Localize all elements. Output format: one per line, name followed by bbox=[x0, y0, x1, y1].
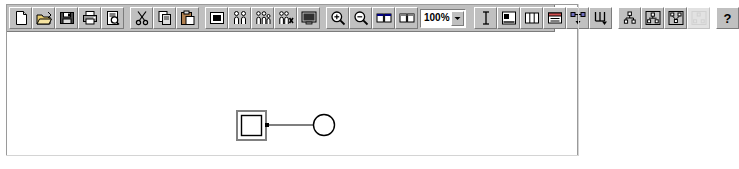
tree-extra-button[interactable] bbox=[687, 7, 710, 29]
save-diskette-icon bbox=[59, 10, 75, 26]
tile-vertical-button[interactable] bbox=[395, 7, 418, 29]
application-window: 100% bbox=[6, 4, 578, 155]
card-view-button[interactable] bbox=[543, 7, 566, 29]
card-view-icon bbox=[547, 10, 563, 26]
square-connection-anchor[interactable] bbox=[265, 123, 269, 127]
save-button[interactable] bbox=[55, 7, 78, 29]
zoom-in-button[interactable] bbox=[326, 7, 349, 29]
scissors-icon bbox=[134, 10, 150, 26]
toolbar-group-view bbox=[326, 7, 418, 30]
tile-horizontal-button[interactable] bbox=[372, 7, 395, 29]
diagram-surface[interactable] bbox=[7, 32, 577, 155]
add-family-button[interactable] bbox=[251, 7, 274, 29]
toolbar-group-file bbox=[9, 7, 124, 30]
zoom-dropdown-button[interactable] bbox=[451, 11, 464, 26]
people-group-icon bbox=[255, 10, 271, 26]
insert-object-button[interactable] bbox=[205, 7, 228, 29]
toolbar-group-format bbox=[474, 7, 612, 30]
node-circle[interactable] bbox=[314, 115, 335, 136]
open-folder-icon bbox=[36, 10, 52, 26]
chevron-down-icon bbox=[454, 16, 461, 21]
remove-person-button[interactable] bbox=[274, 7, 297, 29]
columns-icon bbox=[524, 10, 540, 26]
print-preview-button[interactable] bbox=[101, 7, 124, 29]
tree-small-icon bbox=[622, 10, 638, 26]
new-document-icon bbox=[13, 10, 29, 26]
text-cursor-icon bbox=[478, 10, 494, 26]
printer-icon bbox=[82, 10, 98, 26]
descend-arrow-icon bbox=[593, 10, 609, 26]
toolbar-group-hierarchy bbox=[618, 7, 710, 30]
object-box-icon bbox=[209, 10, 225, 26]
zoom-out-icon bbox=[353, 10, 369, 26]
tree-network-icon bbox=[668, 10, 684, 26]
copy-pages-icon bbox=[157, 10, 173, 26]
two-people-icon bbox=[232, 10, 248, 26]
window-shadow-bottom bbox=[6, 155, 579, 156]
person-delete-icon bbox=[278, 10, 294, 26]
print-preview-icon bbox=[105, 10, 121, 26]
node-square[interactable] bbox=[242, 116, 262, 136]
question-mark-icon: ? bbox=[724, 12, 732, 25]
window-shadow-right bbox=[578, 4, 579, 155]
cut-button[interactable] bbox=[130, 7, 153, 29]
print-button[interactable] bbox=[78, 7, 101, 29]
tree-small-button[interactable] bbox=[618, 7, 641, 29]
tree-extra-icon bbox=[691, 10, 707, 26]
toolbar: 100% bbox=[7, 5, 555, 32]
align-button[interactable] bbox=[497, 7, 520, 29]
diagram-canvas[interactable] bbox=[7, 32, 577, 155]
toolbar-group-objects bbox=[205, 7, 320, 30]
descend-button[interactable] bbox=[589, 7, 612, 29]
add-pair-button[interactable] bbox=[228, 7, 251, 29]
zoom-level-combobox[interactable]: 100% bbox=[420, 9, 466, 28]
columns-button[interactable] bbox=[520, 7, 543, 29]
open-button[interactable] bbox=[32, 7, 55, 29]
toolbar-group-help: ? bbox=[716, 7, 739, 30]
zoom-out-button[interactable] bbox=[349, 7, 372, 29]
toolbar-group-edit bbox=[130, 7, 199, 30]
zoom-level-value: 100% bbox=[421, 13, 450, 23]
tree-family-icon bbox=[645, 10, 661, 26]
monitor-icon bbox=[301, 10, 317, 26]
tree-family-button[interactable] bbox=[641, 7, 664, 29]
zoom-in-icon bbox=[330, 10, 346, 26]
tile-vertical-icon bbox=[399, 10, 415, 26]
align-object-icon bbox=[501, 10, 517, 26]
copy-button[interactable] bbox=[153, 7, 176, 29]
text-tool-button[interactable] bbox=[474, 7, 497, 29]
tile-horizontal-icon bbox=[376, 10, 392, 26]
help-button[interactable]: ? bbox=[716, 7, 739, 29]
paste-button[interactable] bbox=[176, 7, 199, 29]
display-button[interactable] bbox=[297, 7, 320, 29]
tree-network-button[interactable] bbox=[664, 7, 687, 29]
paste-clipboard-icon bbox=[180, 10, 196, 26]
new-button[interactable] bbox=[9, 7, 32, 29]
